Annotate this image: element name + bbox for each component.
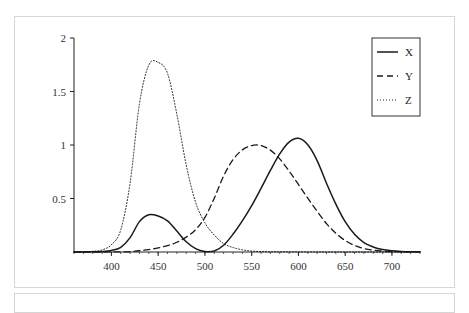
x-tick-label: 600 [290, 260, 307, 272]
axes: 4004505005506006507000.511.52 [52, 32, 420, 272]
series-line-y [74, 145, 420, 252]
series-group [74, 61, 420, 252]
series-line-x [74, 138, 420, 252]
x-tick-label: 700 [384, 260, 401, 272]
x-tick-label: 450 [150, 260, 167, 272]
legend-label-y: Y [405, 70, 413, 82]
y-tick-label: 1.5 [52, 86, 66, 98]
x-tick-label: 550 [243, 260, 260, 272]
legend-label-x: X [405, 46, 413, 58]
y-tick-label: 1 [61, 139, 67, 151]
y-tick-label: 0.5 [52, 193, 66, 205]
x-tick-label: 400 [103, 260, 120, 272]
y-tick-label: 2 [61, 32, 67, 44]
x-tick-label: 650 [337, 260, 354, 272]
legend: XYZ [372, 38, 420, 116]
legend-label-z: Z [405, 94, 412, 106]
x-tick-label: 500 [197, 260, 214, 272]
series-line-z [74, 61, 420, 252]
